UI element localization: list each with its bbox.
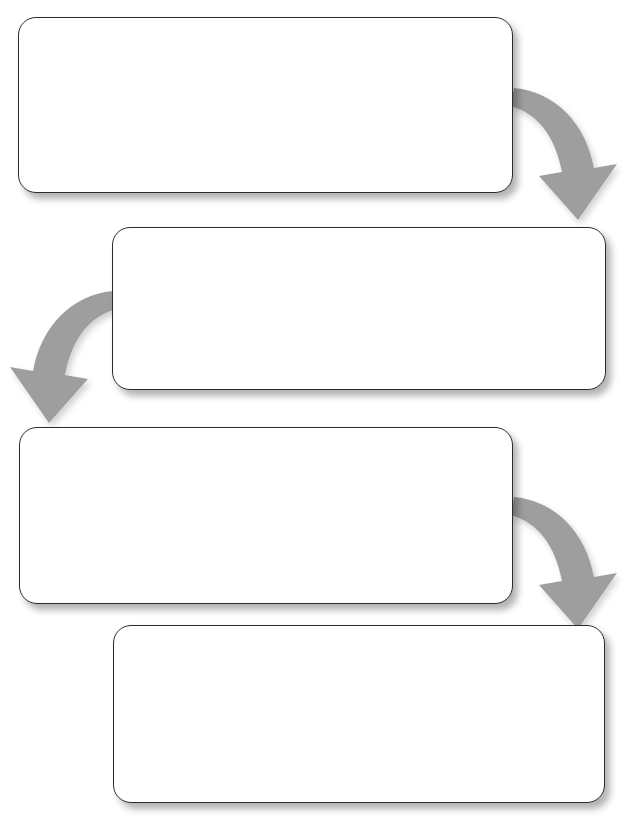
- flow-box-4[interactable]: [113, 625, 605, 803]
- flow-box-2[interactable]: [112, 227, 606, 390]
- arrow-2-left-down-icon: [10, 291, 116, 423]
- arrow-3-right-down-icon: [511, 497, 617, 629]
- flow-box-1[interactable]: [18, 17, 513, 193]
- arrow-1-right-down-icon: [511, 88, 617, 220]
- flow-box-3[interactable]: [19, 427, 513, 604]
- flowchart-canvas: [0, 0, 627, 822]
